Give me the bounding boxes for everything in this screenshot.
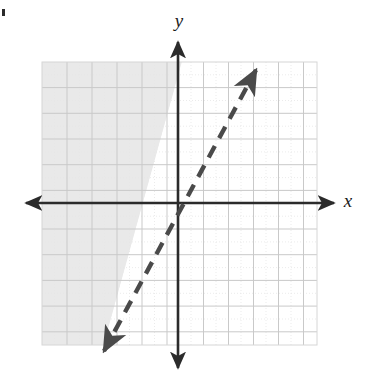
graph-figure: x y [0,0,368,380]
x-axis-label: x [343,190,353,211]
coordinate-plane-svg: x y [0,0,368,380]
page-corner-mark [2,9,5,16]
y-axis-label: y [173,10,184,31]
